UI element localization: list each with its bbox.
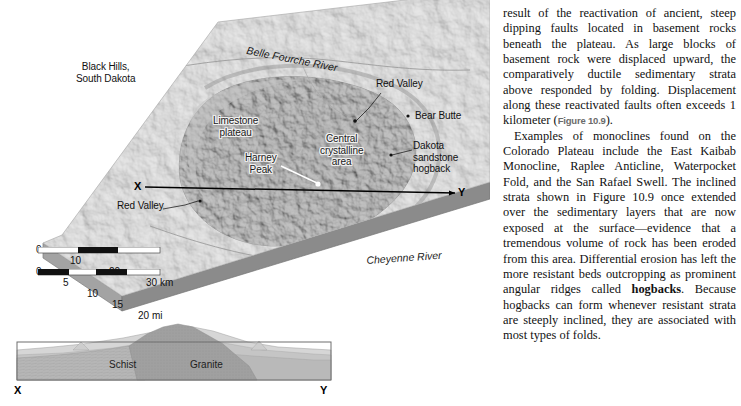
cross-section-y-label: Y (320, 384, 327, 396)
dakota-hogback-label: Dakota sandstone hogback (413, 140, 458, 175)
paragraph-2-run-1: Examples of monoclines found on the Colo… (503, 129, 736, 296)
harney-peak-label: Harney Peak (245, 152, 277, 175)
central-crystalline-label: Central crystalline area (320, 133, 363, 168)
schist-label: Schist (109, 359, 136, 370)
figure-reference-10-9: Figure 10.9 (558, 115, 606, 126)
scale-mi-tick-15: 15 (112, 299, 123, 310)
paragraph-1-run-3: ). (606, 113, 613, 127)
body-text-column: result of the reactivation of ancient, s… (503, 6, 736, 344)
dakota-hogback-dot (389, 153, 392, 156)
scale-mi-bar (38, 269, 193, 281)
red-valley-lower-dot (198, 199, 201, 202)
red-valley-upper-dot (353, 119, 357, 123)
perspective-block: Black Hills, South Dakota Belle Fourche … (0, 0, 490, 320)
paragraph-monoclines-faults: result of the reactivation of ancient, s… (503, 6, 736, 129)
bear-butte-dot (406, 114, 409, 117)
figure-page: Black Hills, South Dakota Belle Fourche … (0, 0, 741, 406)
cross-section-panel: Schist Granite X Y (13, 340, 335, 384)
scale-mi-tick-10: 10 (87, 288, 98, 299)
limestone-plateau-label: Limestone plateau (213, 115, 258, 138)
red-valley-lower-label: Red Valley (117, 200, 164, 212)
cross-section-svg (13, 314, 335, 384)
paragraph-1-run-1: result of the reactivation of ancient, s… (503, 6, 736, 127)
cross-section-x-label: X (14, 384, 21, 396)
granite-label: Granite (190, 359, 223, 370)
bear-butte-label: Bear Butte (415, 110, 461, 122)
section-x-label-map: X (134, 180, 141, 192)
red-valley-upper-label: Red Valley (376, 78, 423, 90)
harney-peak-dot (315, 181, 320, 186)
black-hills-label: Black Hills, South Dakota (76, 61, 135, 84)
block-diagram-figure: Black Hills, South Dakota Belle Fourche … (0, 0, 490, 406)
hogbacks-term: hogbacks (632, 282, 682, 296)
section-y-label-map: Y (458, 186, 465, 198)
paragraph-examples-hogbacks: Examples of monoclines found on the Colo… (503, 129, 736, 344)
